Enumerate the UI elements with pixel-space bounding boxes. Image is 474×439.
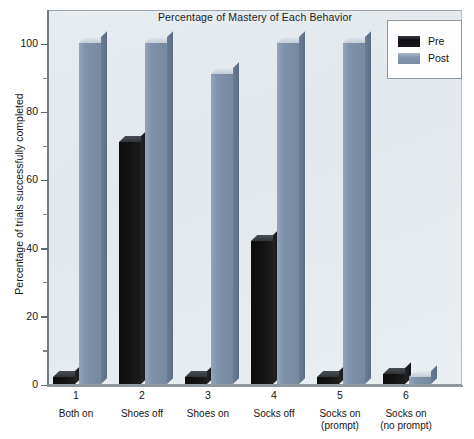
- y-tick-major: [41, 112, 48, 114]
- y-tick-minor: [43, 78, 48, 79]
- y-axis-line: [47, 10, 49, 386]
- bar-pre-4: [251, 241, 273, 384]
- bar-front-face: [317, 377, 339, 384]
- bar-pre-1: [53, 377, 75, 384]
- bar-front-face: [211, 74, 233, 384]
- bar-side-face: [233, 62, 239, 384]
- y-axis-title-wrap: Percentage of trials successfully comple…: [0, 0, 16, 439]
- y-tick-minor: [43, 214, 48, 215]
- bar-post-5: [343, 43, 365, 384]
- bar-pre-2: [119, 142, 141, 384]
- bar-pre-6: [383, 374, 405, 384]
- bar-front-face: [251, 241, 273, 384]
- chart-legend: PrePost: [387, 20, 462, 79]
- bar-front-face: [185, 377, 207, 384]
- bar-front-face: [119, 142, 141, 384]
- x-tick-category-label: Socks on(no prompt): [356, 408, 456, 432]
- legend-swatch-post: [398, 53, 420, 64]
- y-tick-minor: [43, 350, 48, 351]
- bar-front-face: [53, 377, 75, 384]
- bar-side-face: [299, 31, 305, 384]
- bar-front-face: [79, 43, 101, 384]
- legend-label: Post: [428, 52, 449, 64]
- x-tick-number: 6: [356, 389, 456, 401]
- x-axis-line: [47, 385, 463, 387]
- y-tick-major: [41, 180, 48, 182]
- bar-front-face: [277, 43, 299, 384]
- bar-side-face: [431, 365, 437, 384]
- legend-swatch-pre: [398, 36, 420, 47]
- y-tick-minor: [43, 146, 48, 147]
- bar-side-face: [365, 31, 371, 384]
- legend-entry-pre: Pre: [398, 35, 449, 47]
- bar-front-face: [383, 374, 405, 384]
- y-tick-minor: [43, 282, 48, 283]
- bar-chart-figure: Percentage of Mastery of Each Behavior 0…: [0, 0, 474, 439]
- bar-front-face: [343, 43, 365, 384]
- legend-label: Pre: [428, 35, 444, 47]
- bar-post-6: [409, 377, 431, 384]
- bar-post-4: [277, 43, 299, 384]
- bar-pre-5: [317, 377, 339, 384]
- x-tick-category-line: Socks on: [356, 408, 456, 420]
- y-tick-major: [41, 316, 48, 318]
- bar-post-1: [79, 43, 101, 384]
- bar-front-face: [409, 377, 431, 384]
- x-tick-category-line: (no prompt): [356, 420, 456, 432]
- bar-front-face: [145, 43, 167, 384]
- bar-side-face: [101, 31, 107, 384]
- bar-post-2: [145, 43, 167, 384]
- x-tick-group-6: 6Socks on(no prompt): [356, 389, 456, 432]
- bar-pre-3: [185, 377, 207, 384]
- y-tick-major: [41, 44, 48, 46]
- y-axis-title: Percentage of trials successfully comple…: [13, 29, 25, 359]
- bar-side-face: [167, 31, 173, 384]
- bar-post-3: [211, 74, 233, 384]
- y-tick-major: [41, 248, 48, 250]
- legend-entry-post: Post: [398, 52, 449, 64]
